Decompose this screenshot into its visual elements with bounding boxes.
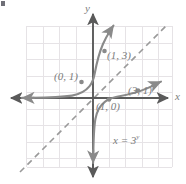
point-label-1-0: (1, 0) bbox=[96, 100, 120, 112]
x-axis-label: x bbox=[175, 90, 180, 102]
equation-exponent: y bbox=[136, 133, 139, 141]
graph-figure: x y (0, 1) (1, 3) (1, 0) (3, 1) x = 3y bbox=[0, 0, 186, 184]
y-axis-label: y bbox=[85, 2, 90, 14]
equation-label: x = 3y bbox=[113, 133, 139, 146]
point-label-3-1: (3, 1) bbox=[128, 84, 152, 96]
equation-base: x = 3 bbox=[113, 134, 136, 146]
point-label-0-1: (0, 1) bbox=[54, 70, 78, 82]
point-label-1-3: (1, 3) bbox=[107, 49, 131, 61]
point-0-1 bbox=[79, 80, 84, 85]
coordinate-plane bbox=[0, 0, 186, 184]
curve-exponential bbox=[22, 26, 114, 98]
